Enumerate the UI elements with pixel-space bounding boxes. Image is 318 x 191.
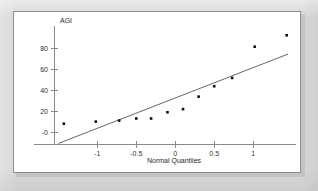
y-tick-label: 60 <box>40 66 48 73</box>
data-point[interactable] <box>253 45 256 48</box>
x-axis-title: Normal Quantiles <box>147 157 202 165</box>
data-points-group[interactable] <box>63 34 288 125</box>
data-point[interactable] <box>197 95 200 98</box>
data-point[interactable] <box>231 77 234 80</box>
data-point[interactable] <box>166 111 169 114</box>
data-point[interactable] <box>213 85 216 88</box>
normal-reference-line <box>58 54 288 143</box>
plot-frame: AGI -020406080 -1-0.500.51 Normal Quanti… <box>13 11 301 173</box>
data-point[interactable] <box>150 117 153 120</box>
y-axis-ticks: -020406080 <box>40 45 58 135</box>
y-tick-label: 40 <box>40 87 48 94</box>
y-axis-title: AGI <box>60 17 72 24</box>
x-tick-label: -1 <box>94 150 100 157</box>
y-tick-label: 20 <box>40 108 48 115</box>
x-tick-label: 0 <box>173 150 177 157</box>
data-point[interactable] <box>63 122 66 125</box>
reference-line-group <box>58 54 288 143</box>
x-tick-label: -0.5 <box>130 150 142 157</box>
y-tick-label: 80 <box>40 45 48 52</box>
data-point[interactable] <box>285 34 288 37</box>
x-tick-label: 1 <box>251 150 255 157</box>
normal-quantile-plot[interactable]: AGI -020406080 -1-0.500.51 Normal Quanti… <box>14 12 300 172</box>
data-point[interactable] <box>135 117 138 120</box>
x-axis-ticks: -1-0.500.51 <box>94 141 255 157</box>
data-point[interactable] <box>94 120 97 123</box>
data-point[interactable] <box>118 119 121 122</box>
x-tick-label: 0.5 <box>209 150 219 157</box>
page-root: AGI -020406080 -1-0.500.51 Normal Quanti… <box>0 0 318 191</box>
y-tick-label: -0 <box>42 129 48 136</box>
data-point[interactable] <box>182 108 185 111</box>
